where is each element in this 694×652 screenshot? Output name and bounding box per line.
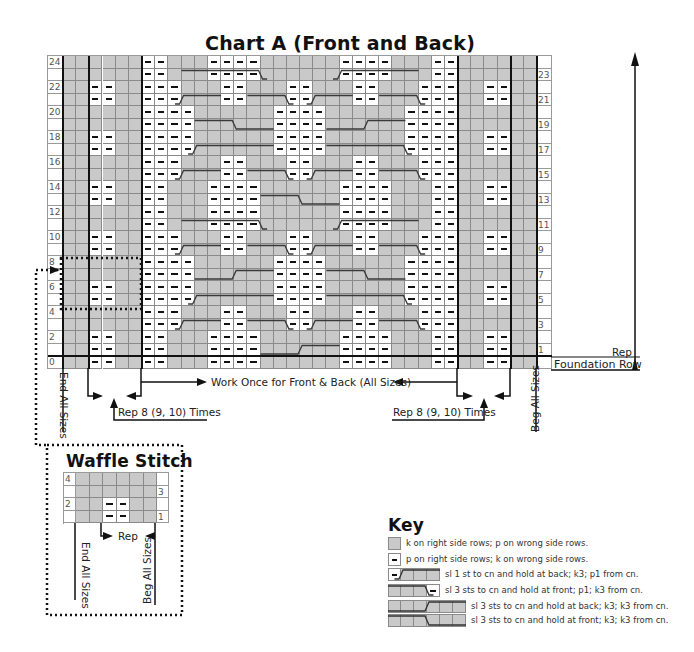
waffle-rep-label: Rep	[118, 530, 138, 542]
knit-cell	[130, 511, 144, 524]
knit-cell	[103, 486, 117, 499]
knit-cell	[76, 511, 90, 524]
waffle-row-label-left	[64, 511, 76, 524]
knit-cell	[130, 486, 144, 499]
key-cable-line	[388, 600, 466, 613]
waffle-row-label-right	[157, 498, 169, 511]
knit-cell	[103, 473, 117, 486]
knit-cell	[90, 511, 104, 524]
knit-cell	[144, 511, 158, 524]
key-item-label: p on right side rows; k on wrong side ro…	[406, 554, 588, 564]
knit-cell	[117, 486, 131, 499]
knit-cell	[130, 498, 144, 511]
purl-cell	[117, 511, 131, 524]
waffle-title: Waffle Stitch	[66, 451, 193, 471]
knit-cell	[90, 473, 104, 486]
purl-cell	[117, 498, 131, 511]
knit-cell	[144, 473, 158, 486]
knit-cell	[144, 498, 158, 511]
rep-times-left-label: Rep 8 (9, 10) Times	[118, 406, 221, 418]
waffle-row-label-left: 2	[64, 498, 76, 511]
work-once-label: Work Once for Front & Back (All Sizes)	[211, 376, 411, 388]
key-swatch-cell	[388, 553, 401, 566]
waffle-row-label-right	[157, 473, 169, 486]
key-item-label: sl 3 sts to cn and hold at back; k3; k3 …	[471, 601, 668, 611]
knit-cell	[117, 473, 131, 486]
key-cable-line	[388, 614, 466, 627]
waffle-beg-all-sizes: Beg All Sizes	[141, 537, 153, 604]
knit-cell	[130, 473, 144, 486]
key-item-label: sl 3 sts to cn and hold at front; p1; k3…	[445, 585, 643, 595]
knit-cell	[144, 486, 158, 499]
key-cable-line	[388, 568, 440, 581]
key-item-label: sl 1 st to cn and hold at back; k3; p1 f…	[445, 569, 638, 579]
knit-cell	[90, 486, 104, 499]
waffle-row-label-left	[64, 486, 76, 499]
end-all-sizes-label: End All Sizes	[58, 372, 70, 439]
rep-label: Rep	[612, 346, 632, 358]
rep-times-right-label: Rep 8 (9, 10) Times	[393, 406, 496, 418]
waffle-row-label-right: 1	[157, 511, 169, 524]
waffle-grid: 4321	[63, 472, 169, 524]
key-cable-line	[388, 584, 440, 597]
key-list: k on right side rows; p on wrong side ro…	[388, 537, 688, 637]
waffle-row-label-left: 4	[64, 473, 76, 486]
waffle-end-all-sizes: End All Sizes	[80, 542, 92, 609]
purl-cell	[103, 511, 117, 524]
key-swatch-cell	[388, 537, 401, 550]
knit-cell	[76, 473, 90, 486]
waffle-row-label-right: 3	[157, 486, 169, 499]
knit-cell	[76, 486, 90, 499]
knit-cell	[76, 498, 90, 511]
foundation-row-label: Foundation Row	[554, 358, 642, 371]
key-item-label: k on right side rows; p on wrong side ro…	[406, 538, 588, 548]
purl-cell	[103, 498, 117, 511]
key-item-label: sl 3 sts to cn and hold at front; k3; k3…	[471, 615, 668, 625]
knit-cell	[90, 498, 104, 511]
beg-all-sizes-label: Beg All Sizes	[529, 365, 541, 432]
key-title: Key	[388, 515, 424, 535]
